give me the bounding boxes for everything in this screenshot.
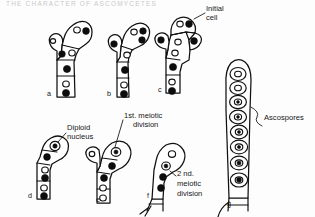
diploid-nucleus-label-line2: nucleus [67, 132, 93, 141]
stage-f-dividing-nucleus-inner [164, 164, 168, 168]
stage-c-nucleus-dark-3 [158, 37, 165, 44]
initial-cell-leader-line [194, 13, 205, 19]
stage-b-nucleus-dark-4 [121, 66, 128, 73]
stage-a-nucleus-dark-2 [59, 51, 66, 58]
stage-e-nucleus-open-3 [100, 195, 107, 201]
stage-e-nucleus-dark-1 [109, 163, 116, 170]
annotation-ascospores: Ascospores [251, 107, 304, 126]
annotation-initial-cell: Initial cell [194, 4, 224, 22]
stage-c-nucleus-dark-1 [186, 21, 193, 28]
stage-c-nucleus-dark-2 [191, 38, 198, 45]
first-meiotic-label-line1: 1st. meiotic [124, 111, 163, 120]
figure-canvas: a b [0, 0, 315, 217]
second-meiotic-label-line2: meiotic [177, 179, 201, 188]
ascospore-8-nucleolus [237, 178, 242, 183]
stage-label-d: d [28, 191, 32, 200]
stage-b-nucleus-open-3 [121, 82, 128, 88]
stage-d-nucleus-open-2 [41, 185, 48, 191]
stage-e-nucleus-open-1 [89, 151, 95, 156]
second-meiotic-label-line1: 2 nd. [177, 169, 194, 178]
stage-g-group: g [218, 60, 251, 217]
diploid-nucleus-label-line1: Diploid [67, 123, 90, 132]
ascus-development-figure: THE CHARACTER OF ASCOMYCETES a [0, 0, 315, 217]
stage-label-f: f [147, 191, 149, 200]
stage-label-g: g [227, 199, 231, 208]
stage-e-dividing-nucleus-inner [114, 150, 118, 154]
stage-a-nucleus-dark-1 [83, 28, 90, 35]
stage-label-c: c [158, 85, 162, 94]
stage-d-group: d [28, 136, 69, 200]
stage-b-nucleus-dark-5 [120, 90, 127, 97]
stage-e-crozier-hook [86, 147, 100, 172]
stage-d-nucleus-dark-2 [42, 175, 49, 182]
stage-a-nucleus-open-2 [50, 39, 55, 44]
second-meiotic-label-line3: division [177, 189, 202, 198]
stage-a-nucleus-dark-3 [63, 65, 70, 72]
stage-b-group: b [107, 23, 150, 98]
stage-b-nucleus-dark-2 [139, 37, 146, 44]
stage-a-nucleus-open-1 [74, 27, 81, 33]
initial-cell-label-line1: Initial [206, 4, 224, 13]
stage-f-nucleus-open-1 [168, 151, 175, 158]
stage-a-nucleus-dark-4 [62, 89, 69, 96]
stage-c-nucleus-open-4 [169, 79, 175, 85]
stage-d-diploid-nucleus-inner [53, 144, 57, 148]
stage-e-nucleus-dark-2 [101, 175, 108, 182]
stage-d-nucleus-dark-1 [44, 154, 51, 161]
stage-label-e: e [96, 195, 100, 204]
ascospore-5-nucleolus [238, 131, 241, 134]
ascospore-2-nucleus [235, 85, 242, 91]
stage-c-nucleus-open-1 [177, 21, 183, 27]
stage-e-nucleus-open-2 [100, 185, 107, 191]
annotation-second-meiotic-division: 2 nd. meiotic division [170, 169, 202, 198]
stage-b-nucleus-open-2 [124, 52, 130, 58]
stage-f-nucleus-dark-2 [158, 185, 165, 192]
stage-a-nucleus-open-3 [69, 50, 75, 56]
stage-b-crozier-hook [108, 35, 121, 62]
stage-label-b: b [107, 89, 111, 98]
ascospore-7-nucleolus [237, 161, 241, 165]
ascospore-4-nucleolus [237, 116, 240, 119]
stage-label-a: a [47, 89, 51, 98]
ascospore-1-nucleus [235, 71, 242, 77]
stage-d-nucleus-dark-3 [41, 193, 48, 200]
first-meiotic-label-line2: division [133, 120, 158, 129]
stage-b-nucleus-dark-3 [111, 41, 118, 48]
stage-b-nucleus-open-1 [131, 29, 137, 35]
stage-c-nucleus-open-3 [172, 50, 178, 56]
stage-c-nucleus-dark-5 [168, 87, 175, 94]
stage-c-group: c [155, 17, 202, 94]
ascospore-3-nucleolus [237, 101, 240, 104]
stage-a-group: a [47, 21, 92, 98]
stage-b-nucleus-dark-1 [140, 28, 147, 35]
stage-d-nucleus-open-1 [42, 167, 49, 173]
stage-c-nucleus-dark-4 [169, 63, 176, 70]
stage-a-nucleus-open-4 [63, 81, 70, 87]
stage-e-group: e [86, 141, 131, 204]
stage-c-nucleus-open-2 [175, 39, 181, 45]
ascospores-label: Ascospores [264, 113, 304, 122]
stage-f-nucleus-dark-1 [160, 174, 167, 181]
ascospores-leader-line [251, 107, 262, 126]
initial-cell-label-line2: cell [206, 13, 218, 22]
ascospore-6-nucleolus [237, 145, 240, 148]
